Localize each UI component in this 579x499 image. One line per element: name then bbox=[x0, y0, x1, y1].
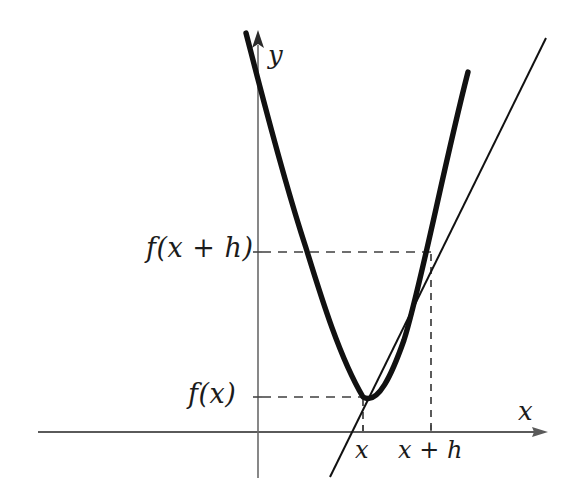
calculus-secant-diagram: f(x + h) f(x) y x x x + h bbox=[0, 0, 579, 499]
label-y-axis: y bbox=[268, 42, 283, 68]
figure-canvas bbox=[0, 0, 579, 499]
label-f-of-x-plus-h: f(x + h) bbox=[146, 234, 253, 261]
x-axis-arrow-icon bbox=[532, 427, 548, 437]
label-x-axis: x bbox=[518, 398, 533, 424]
label-f-of-x: f(x) bbox=[188, 380, 236, 407]
secant-line bbox=[330, 38, 546, 477]
function-curve-parabola bbox=[246, 33, 468, 399]
label-tick-x: x bbox=[355, 438, 369, 462]
x-axis bbox=[38, 427, 548, 437]
label-tick-x-plus-h: x + h bbox=[398, 438, 462, 462]
